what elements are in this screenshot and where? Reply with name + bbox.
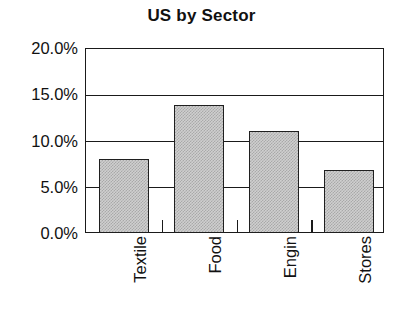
bar-series bbox=[85, 48, 384, 233]
y-axis-tick-label: 20.0% bbox=[8, 40, 78, 57]
x-axis-tick-label: Engin bbox=[282, 236, 299, 278]
bar[interactable] bbox=[324, 170, 374, 233]
bar-chart: US by Sector 0.0%5.0%10.0%15.0%20.0% Tex… bbox=[0, 0, 403, 329]
x-axis-tick bbox=[162, 220, 164, 233]
y-axis-tick-label: 0.0% bbox=[8, 225, 78, 242]
y-axis-tick-label: 5.0% bbox=[8, 179, 78, 196]
bar[interactable] bbox=[99, 159, 149, 233]
x-axis-tick-label: Textile bbox=[132, 236, 149, 283]
x-axis-tick-label: Stores bbox=[357, 236, 374, 284]
x-axis-tick-labels: TextileFoodEnginStores bbox=[85, 236, 384, 329]
x-axis-tick-label: Food bbox=[207, 236, 224, 274]
chart-title: US by Sector bbox=[0, 6, 403, 26]
y-axis-tick-label: 10.0% bbox=[8, 132, 78, 149]
bar[interactable] bbox=[249, 131, 299, 233]
x-axis-tick bbox=[311, 220, 313, 233]
y-axis-tick-label: 15.0% bbox=[8, 86, 78, 103]
bar[interactable] bbox=[174, 105, 224, 233]
x-axis-tick bbox=[237, 220, 239, 233]
